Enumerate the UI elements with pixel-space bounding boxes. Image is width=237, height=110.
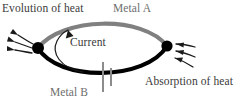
label-absorption-of-heat: Absorption of heat xyxy=(145,76,233,88)
hot-junction-node xyxy=(32,42,44,54)
thermoelectric-circuit-figure: Evolution of heat Metal A Current Metal … xyxy=(0,0,237,110)
heat-out-arrowheads xyxy=(7,29,18,51)
label-metal-a: Metal A xyxy=(113,3,151,15)
cold-junction-node xyxy=(161,40,172,51)
heat-out-arrow-3 xyxy=(15,50,32,53)
heat-in-arrowheads xyxy=(175,43,184,63)
heat-out-arrows xyxy=(15,35,33,53)
heat-in-arrows xyxy=(175,44,195,67)
heat-out-arrow-2 xyxy=(15,42,32,48)
heat-out-arrow-1 xyxy=(18,35,33,44)
label-current: Current xyxy=(70,37,106,49)
circuit-diagram-svg xyxy=(0,0,237,110)
battery-cell-symbol xyxy=(103,62,111,92)
label-metal-b: Metal B xyxy=(50,87,88,99)
label-evolution-of-heat: Evolution of heat xyxy=(2,3,84,15)
